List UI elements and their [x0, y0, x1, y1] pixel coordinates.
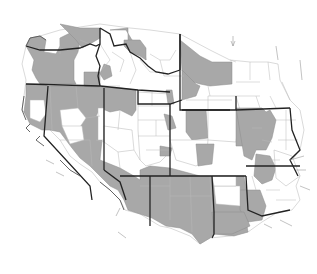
county-choropleth-map: [0, 0, 317, 274]
unshaded-nm-ne: [212, 176, 236, 186]
unshaded-co-center: [208, 96, 240, 142]
shaded-co-west: [186, 110, 208, 140]
unshaded-ut-west-strip: [98, 108, 104, 140]
shaded-co-south: [196, 144, 214, 166]
north-arrow-icon: [231, 36, 235, 46]
unshaded-ok-west: [214, 186, 240, 206]
